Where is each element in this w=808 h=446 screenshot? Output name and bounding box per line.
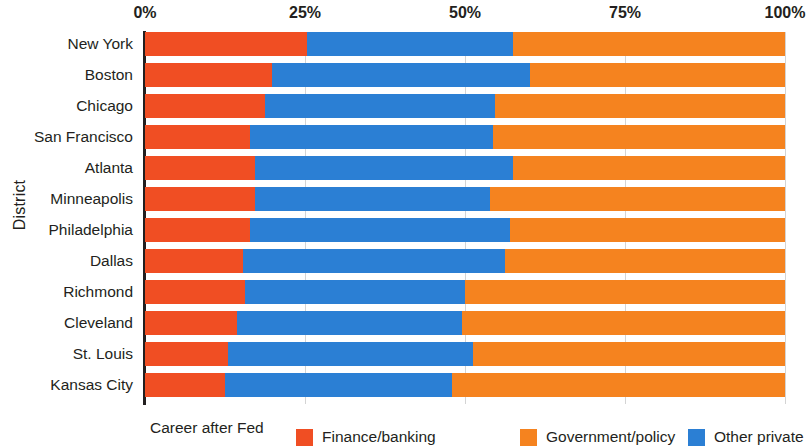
bar-segment [255, 156, 513, 180]
y-axis-category-label: St. Louis [0, 342, 133, 366]
bar-segment [243, 249, 505, 273]
bar-row [145, 94, 785, 118]
legend-label: Finance/banking [322, 428, 436, 446]
y-axis-category-label: San Francisco [0, 125, 133, 149]
bar-segment [145, 187, 255, 211]
y-axis-category-label: Richmond [0, 280, 133, 304]
bar-row [145, 249, 785, 273]
gridline [785, 32, 786, 404]
bar-segment [465, 280, 785, 304]
bar-segment [513, 32, 785, 56]
bar-segment [145, 373, 225, 397]
bar-segment [237, 311, 462, 335]
bar-segment [145, 249, 243, 273]
y-axis-category-label: Dallas [0, 249, 133, 273]
bar-row [145, 342, 785, 366]
legend-label: Government/policy [546, 428, 675, 446]
bar-segment [530, 63, 785, 87]
bar-segment [307, 32, 513, 56]
y-axis-category-label: Cleveland [0, 311, 133, 335]
legend-title: Career after Fed [150, 419, 264, 437]
bar-segment [255, 187, 490, 211]
y-axis-category-label: Atlanta [0, 156, 133, 180]
bar-row [145, 63, 785, 87]
bar-row [145, 218, 785, 242]
bar-segment [490, 187, 785, 211]
plot-area: New YorkBostonChicagoSan FranciscoAtlant… [145, 32, 785, 404]
legend-entry: Finance/banking [296, 428, 436, 446]
bar-segment [510, 218, 785, 242]
bar-segment [228, 342, 473, 366]
y-axis-category-label: Kansas City [0, 373, 133, 397]
legend-entry: Other private [688, 428, 804, 446]
bar-segment [245, 280, 465, 304]
y-axis-category-label: New York [0, 32, 133, 56]
bar-row [145, 187, 785, 211]
bar-segment [493, 125, 785, 149]
y-axis-category-label: Philadelphia [0, 218, 133, 242]
bar-segment [513, 156, 785, 180]
bar-segment [145, 218, 250, 242]
legend-swatch [520, 429, 537, 446]
bar-segment [495, 94, 785, 118]
bar-segment [145, 63, 272, 87]
bar-row [145, 373, 785, 397]
x-axis-tick-label: 100% [765, 4, 806, 22]
bar-segment [265, 94, 495, 118]
y-axis-category-label: Boston [0, 63, 133, 87]
y-axis-category-label: Minneapolis [0, 187, 133, 211]
bar-row [145, 156, 785, 180]
bar-segment [505, 249, 785, 273]
legend-swatch [296, 429, 313, 446]
bar-row [145, 280, 785, 304]
bar-segment [452, 373, 785, 397]
bar-segment [145, 156, 255, 180]
bar-segment [145, 125, 250, 149]
bar-segment [145, 94, 265, 118]
bar-segment [250, 218, 510, 242]
x-axis-tick-label: 50% [449, 4, 481, 22]
bar-row [145, 311, 785, 335]
bar-segment [145, 311, 237, 335]
bar-segment [250, 125, 493, 149]
x-axis-tick-label: 0% [133, 4, 156, 22]
chart-legend: Career after Fed Finance/bankingGovernme… [0, 413, 808, 443]
bar-segment [272, 63, 531, 87]
bar-segment [145, 32, 307, 56]
x-axis-tick-label: 75% [609, 4, 641, 22]
bar-segment [462, 311, 785, 335]
bar-segment [145, 280, 245, 304]
bar-row [145, 125, 785, 149]
bar-row [145, 32, 785, 56]
bar-segment [473, 342, 785, 366]
legend-entry: Government/policy [520, 428, 675, 446]
x-axis-tick-label: 25% [289, 4, 321, 22]
bar-segment [145, 342, 228, 366]
y-axis-category-label: Chicago [0, 94, 133, 118]
legend-label: Other private [714, 428, 804, 446]
bar-segment [225, 373, 452, 397]
legend-swatch [688, 429, 705, 446]
